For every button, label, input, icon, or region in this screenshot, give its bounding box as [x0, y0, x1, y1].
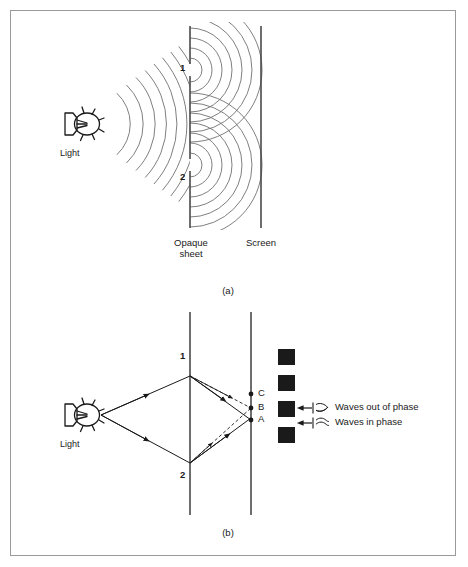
ray-paths-dashed: [190, 376, 251, 463]
panel-b-caption: (b): [208, 528, 248, 539]
light-source-label-b: Light: [60, 439, 80, 449]
opaque-sheet-label-line2: sheet: [164, 249, 218, 260]
diagram-canvas: [0, 0, 468, 567]
fringe-square-3: [278, 401, 295, 417]
panel-a-graphics: [65, 0, 262, 237]
screen-point-label-b: B: [258, 402, 264, 413]
light-bulb-icon-b: [65, 398, 104, 432]
light-bulb-icon-a: [65, 107, 104, 141]
panel-a-caption: (a): [208, 286, 248, 297]
figure-root: Light 1 2 Opaque sheet Screen (a) Light …: [0, 0, 468, 567]
panel-b-graphics: [65, 312, 329, 515]
fringe-squares: [278, 349, 295, 443]
fringe-square-2: [278, 375, 295, 391]
diffracted-wavefronts-slit-2: [190, 93, 262, 237]
fringe-square-4: [278, 427, 295, 443]
screen-point-label-c: C: [258, 388, 265, 399]
screen-point-label-a: A: [258, 414, 264, 425]
legend-pointer-out-of-phase: [300, 403, 313, 414]
slit-label-1-b: 1: [180, 351, 185, 362]
light-source-label-a: Light: [60, 148, 80, 158]
legend-label-in-phase: Waves in phase: [335, 417, 402, 428]
screen-points: [249, 392, 254, 423]
ray-paths-solid: [101, 376, 251, 463]
legend-pointer-in-phase: [300, 418, 313, 429]
slit-label-2-a: 2: [180, 172, 185, 183]
slit-label-1-a: 1: [180, 63, 185, 74]
fringe-square-1: [278, 349, 295, 365]
screen-point-c: [249, 392, 254, 397]
legend-label-out-of-phase: Waves out of phase: [335, 402, 419, 413]
ray-arrow-heads-dashed: [190, 376, 231, 463]
screen-point-a: [249, 418, 254, 423]
out-of-phase-wave-icon: [316, 404, 328, 412]
diffracted-wavefronts-slit-1: [190, 0, 262, 142]
slit-label-2-b: 2: [180, 470, 185, 481]
in-phase-wave-icon: [316, 418, 329, 425]
screen-point-b: [249, 406, 254, 411]
screen-label-a: Screen: [235, 238, 287, 249]
incident-wavefronts: [88, 46, 206, 201]
